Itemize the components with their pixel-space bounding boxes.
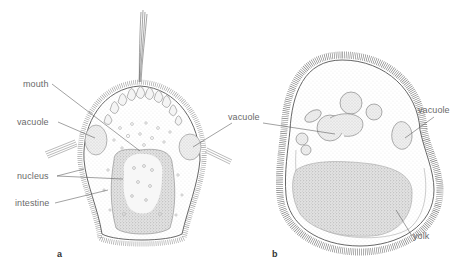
label-vacuole-b-right: vacuole bbox=[418, 106, 450, 115]
label-nucleus: nucleus bbox=[17, 172, 49, 181]
organism-b bbox=[279, 55, 440, 252]
label-vacuole-a: vacuole bbox=[17, 118, 49, 127]
label-mouth: mouth bbox=[23, 80, 49, 89]
cilia-tuft-right bbox=[205, 148, 232, 164]
panel-letter-a: a bbox=[57, 250, 62, 259]
cilia-tuft-left bbox=[45, 140, 77, 158]
organism-a bbox=[45, 10, 232, 244]
label-vacuole-b-left: vacuole bbox=[228, 113, 260, 122]
vacuole-left bbox=[85, 125, 107, 155]
panel-letter-b: b bbox=[272, 250, 278, 259]
flagellum bbox=[139, 10, 147, 82]
vacuole-right bbox=[179, 134, 201, 160]
label-yolk: yolk bbox=[413, 232, 429, 241]
protozoan-illustration bbox=[0, 0, 460, 268]
label-intestine: intestine bbox=[15, 199, 49, 208]
